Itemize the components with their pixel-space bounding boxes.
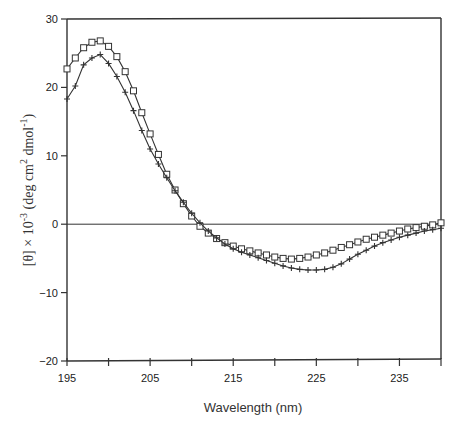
- x-tick-label: 195: [58, 372, 76, 384]
- y-axis-label-sup3: -1: [18, 118, 29, 126]
- plus-marker-icon: [372, 243, 378, 249]
- square-marker-icon: [64, 66, 70, 72]
- square-marker-icon: [438, 220, 444, 226]
- square-marker-icon: [347, 242, 353, 248]
- square-marker-icon: [413, 225, 419, 231]
- y-axis-label-prefix: [θ] × 10: [21, 221, 36, 266]
- plus-marker-icon: [130, 108, 136, 114]
- square-marker-icon: [272, 254, 278, 260]
- square-marker-icon: [97, 38, 103, 44]
- y-tick-label: 10: [46, 150, 58, 162]
- square-marker-icon: [297, 255, 303, 261]
- data-series: [64, 38, 444, 273]
- plus-marker-icon: [64, 96, 70, 102]
- plus-marker-icon: [396, 234, 402, 240]
- plus-marker-icon: [288, 265, 294, 271]
- top-frame-line: [67, 18, 441, 19]
- plus-marker-icon: [155, 161, 161, 167]
- plus-marker-icon: [297, 266, 303, 272]
- plus-marker-icon: [122, 89, 128, 95]
- square-marker-icon: [338, 244, 344, 250]
- plus-marker-icon: [147, 146, 153, 152]
- y-tick-label: 30: [46, 13, 58, 25]
- plus-marker-icon: [388, 237, 394, 243]
- square-marker-icon: [280, 255, 286, 261]
- x-tick-label: 215: [224, 372, 242, 384]
- plus-marker-icon: [338, 261, 344, 267]
- plus-marker-icon: [272, 260, 278, 266]
- square-marker-icon: [139, 110, 145, 116]
- square-marker-icon: [72, 55, 78, 61]
- x-axis-label: Wavelength (nm): [204, 400, 303, 415]
- square-marker-icon: [396, 228, 402, 234]
- x-axis-ticks: 195205215225235: [58, 358, 441, 384]
- cd-spectrum-chart: 195205215225235 −20−100102030 Wavelength…: [0, 0, 455, 442]
- square-marker-icon: [405, 226, 411, 232]
- plus-marker-icon: [313, 267, 319, 273]
- square-marker-icon: [330, 247, 336, 253]
- y-axis-ticks: −20−100102030: [39, 13, 67, 367]
- square-marker-icon: [305, 254, 311, 260]
- square-marker-icon: [114, 54, 120, 60]
- y-tick-label: −10: [39, 287, 58, 299]
- plus-marker-icon: [139, 127, 145, 133]
- plus-marker-icon: [72, 83, 78, 89]
- plus-marker-icon: [347, 256, 353, 262]
- square-marker-icon: [263, 252, 269, 258]
- square-marker-icon: [363, 236, 369, 242]
- y-axis-label-units-c: ): [21, 113, 37, 118]
- square-marker-icon: [372, 234, 378, 240]
- x-axis-line: [67, 359, 441, 361]
- y-axis-label-units-b: dmol: [21, 127, 36, 159]
- plus-marker-icon: [280, 263, 286, 269]
- y-tick-label: 0: [52, 218, 58, 230]
- plus-marker-icon: [114, 73, 120, 79]
- square-marker-icon: [313, 252, 319, 258]
- y-tick-label: −20: [39, 355, 58, 367]
- x-tick-label: 235: [390, 372, 408, 384]
- square-marker-icon: [147, 131, 153, 137]
- plus-marker-icon: [322, 266, 328, 272]
- plus-marker-icon: [330, 264, 336, 270]
- y-tick-label: 20: [46, 81, 58, 93]
- square-marker-icon: [106, 43, 112, 49]
- y-axis-label-exp: -3: [18, 213, 29, 221]
- series-squares: [64, 38, 444, 262]
- x-tick-label: 205: [141, 372, 159, 384]
- square-marker-icon: [89, 39, 95, 45]
- plus-marker-icon: [355, 251, 361, 257]
- square-marker-icon: [322, 250, 328, 256]
- square-marker-icon: [288, 256, 294, 262]
- plus-marker-icon: [363, 247, 369, 253]
- square-marker-icon: [380, 232, 386, 238]
- square-marker-icon: [355, 239, 361, 245]
- series-plus: [64, 52, 444, 273]
- square-marker-icon: [122, 69, 128, 75]
- square-marker-icon: [388, 230, 394, 236]
- square-marker-icon: [155, 151, 161, 157]
- square-marker-icon: [130, 88, 136, 94]
- y-axis-label-units-a: (deg cm: [21, 164, 37, 213]
- y-axis-label: [θ] × 10-3 (deg cm2 dmol-1): [18, 113, 37, 266]
- plus-marker-icon: [405, 232, 411, 238]
- plus-marker-icon: [305, 267, 311, 273]
- plus-marker-icon: [380, 240, 386, 246]
- x-tick-label: 225: [307, 372, 325, 384]
- square-marker-icon: [81, 45, 87, 51]
